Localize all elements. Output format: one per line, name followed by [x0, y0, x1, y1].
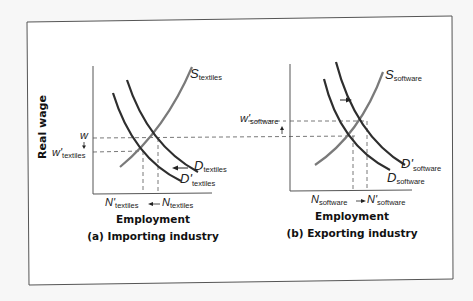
labor-market-diagram: Real wage Stextiles Dtextiles D'textiles… [0, 0, 473, 301]
y-axis-label: Real wage [36, 95, 49, 159]
panel-b-x-axis-label: Employment [315, 210, 389, 222]
panel-b-caption: (b) Exporting industry [286, 227, 417, 239]
panel-a-x-axis-label: Employment [116, 213, 190, 225]
panel-a-caption: (a) Importing industry [87, 230, 219, 242]
figure-frame [27, 16, 453, 285]
panel-a-wage-label: w [80, 129, 89, 141]
